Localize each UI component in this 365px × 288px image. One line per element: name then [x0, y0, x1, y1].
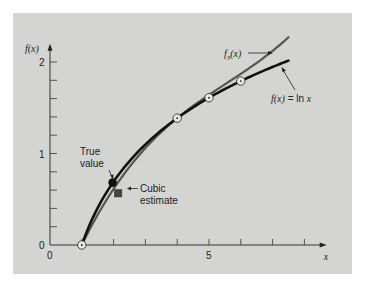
cubic-estimate-point [114, 189, 122, 197]
data-point-center [240, 80, 242, 82]
y-tick-label: 2 [39, 57, 45, 68]
cubic-estimate-label-line2: estimate [140, 195, 178, 206]
f3-label: f3(x) [224, 48, 242, 62]
y-axis-arrow-icon [48, 44, 53, 51]
true-value-label-line1: True [80, 146, 101, 157]
curves [82, 37, 289, 245]
y-axis-label: f(x) [25, 43, 40, 55]
data-point-center [81, 244, 83, 246]
ln-x-label-arrow [283, 70, 295, 90]
chart: 05012xf(x) TruevalueCubicestimatef3(x)f(… [0, 0, 365, 288]
cubic-estimate-label-line1: Cubic [140, 183, 166, 194]
ln-x-line [82, 61, 289, 245]
y-tick-label: 1 [39, 149, 45, 160]
y-tick-label: 0 [39, 240, 45, 251]
x-tick-label: 5 [206, 250, 212, 261]
data-point-center [208, 97, 210, 99]
x-tick-label: 0 [47, 250, 53, 261]
true-value-point [108, 178, 117, 187]
data-point-center [176, 117, 178, 119]
x-axis-arrow-icon [320, 243, 327, 248]
x-axis-label: x [323, 251, 329, 262]
cubic-interpolant-line [82, 37, 289, 245]
axes: 05012xf(x) [25, 43, 329, 262]
ln-x-label: f(x) = ln x [271, 93, 312, 105]
cubic-estimate-arrowhead-icon [127, 187, 131, 191]
true-value-label-line2: value [80, 158, 104, 169]
ln-x-label-arrowhead-icon [282, 67, 287, 72]
